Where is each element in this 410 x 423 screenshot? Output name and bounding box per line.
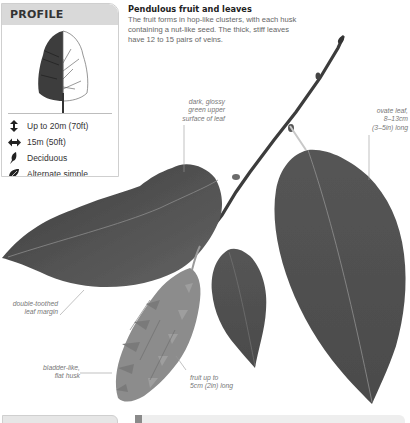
annotation-husk: bladder-like, flat husk bbox=[30, 364, 80, 381]
intro-section: Pendulous fruit and leaves The fruit for… bbox=[128, 4, 358, 45]
fact-spread: 15m (50ft) bbox=[7, 134, 118, 150]
next-section-bar bbox=[135, 415, 405, 423]
fact-height: Up to 20m (70ft) bbox=[7, 118, 118, 134]
tree-silhouette-icon bbox=[35, 29, 91, 113]
leaf-small bbox=[212, 249, 267, 368]
width-arrows-icon bbox=[7, 136, 21, 148]
fact-height-text: Up to 20m (70ft) bbox=[27, 121, 88, 131]
annotation-glossy-surface: dark, glossy green upper surface of leaf bbox=[145, 98, 225, 123]
annotation-leaf-margin: double-toothed leaf margin bbox=[2, 300, 58, 317]
intro-title: Pendulous fruit and leaves bbox=[128, 4, 358, 14]
profile-title: PROFILE bbox=[2, 4, 118, 25]
fact-leaf-type: Alternate simple bbox=[7, 166, 118, 177]
fact-leaf-type-text: Alternate simple bbox=[27, 169, 88, 177]
leaf-arrangement-icon bbox=[7, 168, 21, 177]
height-arrows-icon bbox=[7, 120, 21, 132]
deciduous-leaf-icon bbox=[7, 152, 21, 164]
next-section-tab bbox=[2, 415, 118, 423]
profile-panel: PROFILE Up to 20m (70ft) 15m (50ft) bbox=[1, 3, 119, 177]
profile-facts: Up to 20m (70ft) 15m (50ft) Deciduous Al… bbox=[2, 114, 118, 177]
intro-body: The fruit forms in hop-like clusters, wi… bbox=[128, 15, 298, 45]
annotation-fruit-length: fruit up to 5cm (2in) long bbox=[190, 374, 270, 391]
leaf-right bbox=[274, 150, 405, 404]
fact-foliage: Deciduous bbox=[7, 150, 118, 166]
tree-silhouette bbox=[8, 25, 112, 114]
fact-foliage-text: Deciduous bbox=[27, 153, 67, 163]
fruit-cluster bbox=[116, 268, 201, 402]
annotation-ovate-leaf: ovate leaf, 8–13cm (3–5in) long bbox=[340, 107, 408, 132]
fact-spread-text: 15m (50ft) bbox=[27, 137, 66, 147]
section-marker bbox=[135, 415, 142, 423]
